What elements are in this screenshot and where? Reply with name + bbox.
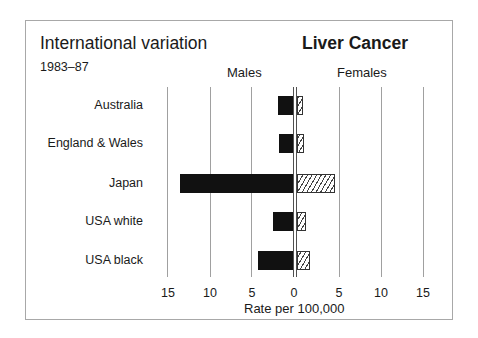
x-tick: 5: [249, 286, 256, 300]
chart-title: Liver Cancer: [302, 33, 408, 54]
x-tick: 15: [416, 286, 430, 300]
period-label: 1983–87: [40, 60, 89, 74]
category-label: Japan: [109, 176, 143, 190]
x-axis-label: Rate per 100,000: [244, 301, 344, 316]
female-bar: [297, 212, 306, 231]
gridline-female-10: [381, 87, 382, 277]
male-bar: [279, 134, 293, 153]
zero-line-male: [293, 87, 294, 277]
gridline-female-15: [423, 87, 424, 277]
category-label: USA black: [85, 253, 143, 267]
female-bar: [297, 251, 310, 270]
x-tick: 15: [161, 286, 175, 300]
male-bar: [180, 174, 293, 193]
females-header: Females: [337, 65, 387, 80]
gridline-male-15: [167, 87, 168, 277]
x-tick: 10: [374, 286, 388, 300]
x-tick: 10: [203, 286, 217, 300]
female-bar: [297, 134, 304, 153]
female-bar: [297, 174, 335, 193]
male-bar: [258, 251, 293, 270]
male-bar: [278, 96, 293, 115]
x-tick: 5: [336, 286, 343, 300]
female-bar: [297, 96, 303, 115]
x-tick: 0: [291, 286, 298, 300]
category-label: USA white: [85, 214, 143, 228]
gridline-female-5: [339, 87, 340, 277]
category-label: England & Wales: [48, 136, 143, 150]
category-label: Australia: [94, 98, 143, 112]
chart-subtitle: International variation: [40, 33, 207, 54]
males-header: Males: [227, 65, 262, 80]
male-bar: [273, 212, 293, 231]
